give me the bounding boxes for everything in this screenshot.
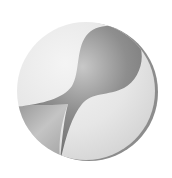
lower-lobe [0,104,68,170]
circular-emblem [0,0,172,178]
